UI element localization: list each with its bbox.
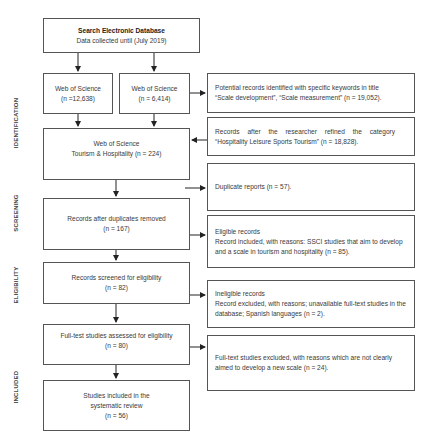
included-count: (n = 56) [105, 411, 128, 421]
duplicates-text: Duplicate reports (n = 57). [215, 182, 291, 192]
refined-line2: “Hospitality Leisure Sports Tourism” (n … [215, 137, 358, 147]
search-database-box: Search Electronic Database Data collecte… [43, 18, 200, 53]
refined-line1: Records after the researcher refined the… [215, 127, 395, 137]
excluded-text: Full-text studies excluded, with reasons… [215, 353, 407, 373]
wos-th-count: Tourism & Hospitality (n = 224) [72, 149, 162, 159]
duplicate-reports-box: Duplicate reports (n = 57). [207, 163, 415, 211]
search-title: Search Electronic Database [78, 26, 165, 36]
wos-a-count: (n =12,638) [61, 94, 95, 104]
included-line2: systematic review [90, 401, 142, 411]
potential-records-box: Potential records identified with specif… [207, 73, 415, 113]
search-subtitle: Data collected until (July 2019) [76, 36, 166, 46]
eligible-title: Eligible records [215, 227, 260, 237]
fulltext-label: Full-test studies assessed for eligibili… [60, 331, 172, 341]
records-after-duplicates-box: Records after duplicates removed (n = 16… [43, 198, 190, 250]
keywords-line2: “Scale development”, “Scale measurement”… [215, 93, 382, 103]
wos-b-count: (n = 6,414) [138, 94, 170, 104]
ineligible-records-box: Ineligible records Record excluded, with… [207, 280, 415, 328]
web-of-science-box-a: Web of Science (n =12,638) [43, 73, 113, 114]
after-dup-label: Records after duplicates removed [67, 214, 166, 224]
ineligible-title: Ineligible records [215, 289, 265, 299]
full-text-assessed-box: Full-test studies assessed for eligibili… [43, 324, 190, 365]
records-screened-box: Records screened for eligibility (n = 82… [43, 262, 190, 304]
full-text-excluded-box: Full-text studies excluded, with reasons… [207, 335, 415, 391]
keywords-line1: Potential records identified with specif… [215, 83, 379, 93]
fulltext-count: (n = 80) [105, 341, 128, 351]
wos-a-label: Web of Science [55, 84, 101, 94]
after-dup-count: (n = 167) [103, 224, 130, 234]
refined-records-box: Records after the researcher refined the… [207, 117, 415, 156]
studies-included-box: Studies included in the systematic revie… [43, 380, 190, 431]
eligible-text: Record included, with reasons: SSCI stud… [215, 237, 407, 257]
web-of-science-box-b: Web of Science (n = 6,414) [119, 73, 190, 114]
wos-b-label: Web of Science [131, 84, 177, 94]
screened-count: (n = 82) [105, 283, 128, 293]
ineligible-text: Record excluded, with reasons; unavailab… [215, 299, 407, 319]
screened-label: Records screened for eligibility [72, 273, 162, 283]
wos-tourism-hospitality-box: Web of Science Tourism & Hospitality (n … [43, 128, 190, 180]
wos-th-label: Web of Science [93, 139, 139, 149]
eligible-records-box: Eligible records Record included, with r… [207, 215, 415, 268]
included-line1: Studies included in the [83, 391, 149, 401]
